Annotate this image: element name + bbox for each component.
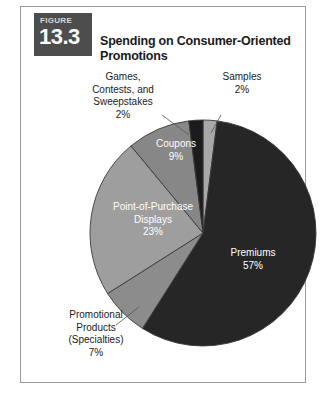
figure-number-badge: FIGURE 13.3 — [34, 13, 92, 56]
pie-label-samples: Samples 2% — [207, 71, 277, 96]
pie-label-games-contests-sweepstakes: Games, Contests, and Sweepstakes 2% — [77, 71, 169, 121]
pie-label-coupons: Coupons 9% — [143, 138, 209, 163]
figure-number: 13.3 — [39, 24, 80, 50]
figure-frame: Games, Contests, and Sweepstakes 2% Samp… — [20, 6, 306, 383]
pie-label-promotional-products: Promotional Products (Specialties) 7% — [41, 309, 151, 359]
pie-label-premiums: Premiums 57% — [217, 247, 289, 272]
pie-chart: Games, Contests, and Sweepstakes 2% Samp… — [21, 7, 324, 398]
pie-label-point-of-purchase-displays: Point-of-Purchase Displays 23% — [101, 201, 205, 239]
figure-title: Spending on Consumer-Oriented Promotions — [100, 34, 322, 64]
